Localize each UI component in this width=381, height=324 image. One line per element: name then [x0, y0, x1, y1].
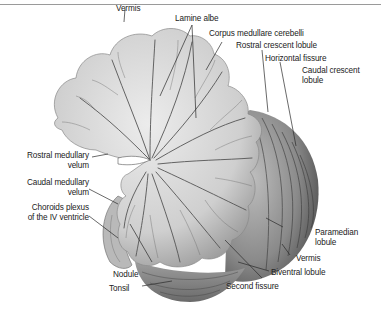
label-corpus-medullare: Corpus medullare cerebelli	[209, 29, 304, 39]
label-second-fissure: Second fissure	[226, 282, 279, 292]
label-tonsil: Tonsil	[109, 284, 129, 294]
label-caudal-medullary-velum: Caudal medullary velum	[27, 178, 89, 197]
label-choroids-line2: of the IV ventricle	[28, 213, 89, 223]
cut-surface	[54, 29, 261, 267]
label-rostral-medullary-line2: velum	[27, 161, 89, 171]
label-vermis-top: Vermis	[116, 4, 140, 14]
label-choroids-plexus: Choroids plexus of the IV ventricle	[28, 203, 89, 222]
label-horizontal-fissure: Horizontal fissure	[265, 54, 326, 64]
label-caudal-crescent-line2: lobule	[302, 76, 360, 86]
label-vermis-bottom: Vermis	[296, 254, 320, 264]
label-biventral-lobule: Biventral lobule	[271, 268, 325, 278]
label-paramedian-line2: lobule	[315, 238, 358, 248]
label-caudal-crescent: Caudal crescent lobule	[302, 66, 360, 85]
label-nodule: Nodule	[113, 270, 138, 280]
label-lamine-albe: Lamine albe	[175, 14, 219, 24]
label-rostral-crescent: Rostral crescent lobule	[236, 41, 317, 51]
label-paramedian-lobule: Paramedian lobule	[315, 228, 358, 247]
label-rostral-medullary-line1: Rostral medullary	[27, 151, 89, 161]
label-rostral-medullary-velum: Rostral medullary velum	[27, 151, 89, 170]
label-paramedian-line1: Paramedian	[315, 228, 358, 238]
label-caudal-medullary-line2: velum	[27, 188, 89, 198]
label-caudal-medullary-line1: Caudal medullary	[27, 178, 89, 188]
label-choroids-line1: Choroids plexus	[28, 203, 89, 213]
label-caudal-crescent-line1: Caudal crescent	[302, 66, 360, 76]
